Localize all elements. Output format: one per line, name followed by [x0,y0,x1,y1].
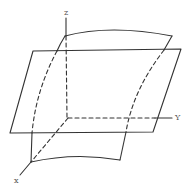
coordinate-diagram: z Y x [0,0,192,193]
curved-surface-right-edge-top [164,36,172,50]
curved-surface-left-edge-hidden [32,51,57,133]
x-axis-solid [20,162,31,175]
x-axis-dashed [31,118,68,162]
curved-surface-left-edge-top [57,36,65,51]
curved-surface-right-edge-hidden [126,50,164,132]
z-axis-label: z [64,9,68,17]
y-axis-label: Y [175,114,180,122]
curved-surface-left-edge-bottom [31,133,32,162]
diagram-canvas [0,0,192,193]
curved-surface-right-edge-bottom [120,132,126,160]
x-axis-label: x [14,177,19,185]
curved-surface-bottom-edge [31,156,120,162]
z-axis-dashed [66,36,67,118]
curved-surface-top-edge [65,30,172,36]
